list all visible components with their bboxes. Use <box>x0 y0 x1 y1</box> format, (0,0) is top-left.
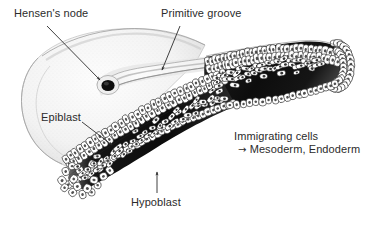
label-epiblast: Epiblast <box>41 111 81 124</box>
immigrating-cell <box>84 167 91 173</box>
epithelial-cell <box>266 96 272 104</box>
epithelial-cell <box>252 98 259 106</box>
label-hensens-node: Hensen's node <box>14 7 88 20</box>
label-primitive-groove: Primitive groove <box>161 7 241 20</box>
label-immigrating-cells: Immigrating cells → Mesoderm, Endoderm <box>234 130 360 156</box>
hensens-node-pit-gloss <box>104 82 109 86</box>
epithelial-cell <box>240 100 246 108</box>
right-arrow-icon: → <box>238 144 246 155</box>
cell-fates-line: → Mesoderm, Endoderm <box>238 143 360 156</box>
immigrating-cell <box>214 96 220 100</box>
epithelial-cell <box>226 102 233 109</box>
hensens-node-pit <box>101 80 114 91</box>
gastrulation-figure: Hensen's node Primitive groove Epiblast … <box>0 0 373 234</box>
immigrating-cell <box>220 96 229 101</box>
epithelial-cell <box>233 100 241 109</box>
immigrating-cells-text: Immigrating cells <box>234 130 318 142</box>
immigrating-cell <box>126 149 133 154</box>
label-hypoblast: Hypoblast <box>131 196 181 209</box>
epithelial-cell <box>246 98 253 106</box>
cell-fates-text: Mesoderm, Endoderm <box>250 143 361 155</box>
immigrating-cell <box>260 74 268 79</box>
immigrating-cell <box>229 82 239 88</box>
immigrating-cell <box>199 99 207 104</box>
